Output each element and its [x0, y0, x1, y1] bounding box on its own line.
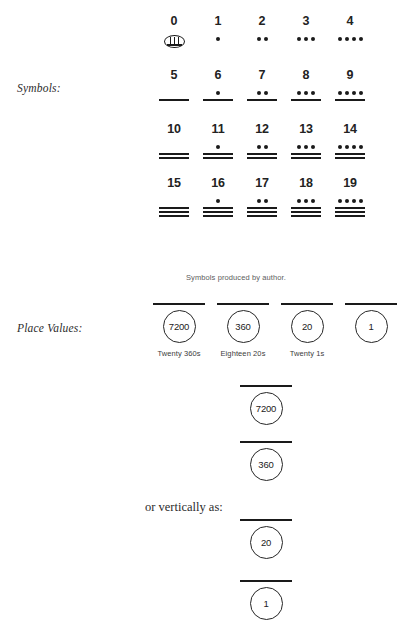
vertical-place-value-circle: 7200: [250, 392, 283, 425]
mayan-numeral-glyph: [291, 142, 321, 168]
bar-group: [203, 207, 233, 217]
mayan-numeral-glyph: [203, 196, 233, 222]
dot-group: [216, 88, 220, 97]
unit-dot-icon: [352, 91, 356, 95]
dot-group: [257, 88, 268, 97]
symbol-number-label: 2: [259, 14, 266, 30]
dot-group: [257, 196, 268, 205]
unit-dot-icon: [216, 145, 220, 149]
bar-group: [159, 99, 189, 101]
symbol-number-label: 1: [215, 14, 222, 30]
symbol-number-label: 10: [167, 122, 181, 138]
place-value-sublabel: Eighteen 20s: [221, 349, 266, 358]
unit-dot-icon: [338, 91, 342, 95]
unit-dot-icon: [352, 37, 356, 41]
mayan-numeral-glyph: [247, 196, 277, 222]
dot-group: [216, 34, 220, 43]
unit-dot-icon: [304, 37, 308, 41]
symbol-number-label: 19: [343, 176, 357, 192]
symbol-cell-11: 11: [196, 122, 240, 168]
unit-dot-icon: [338, 199, 342, 203]
five-bar-icon: [335, 215, 365, 217]
mayan-numeral-glyph: [335, 142, 365, 168]
symbol-number-label: 4: [347, 14, 354, 30]
mayan-numeral-glyph: [335, 88, 365, 114]
symbol-number-label: 7: [259, 68, 266, 84]
unit-dot-icon: [216, 91, 220, 95]
unit-dot-icon: [311, 145, 315, 149]
five-bar-icon: [203, 215, 233, 217]
bar-group: [335, 153, 365, 159]
bar-group: [203, 153, 233, 159]
vertical-place-value-1: 1: [238, 580, 294, 620]
unit-dot-icon: [264, 91, 268, 95]
five-bar-icon: [159, 215, 189, 217]
unit-dot-icon: [359, 199, 363, 203]
symbol-cell-0: 0: [152, 14, 196, 60]
symbol-cell-5: 5: [152, 68, 196, 114]
five-bar-icon: [291, 157, 321, 159]
mayan-numeral-glyph: [159, 142, 189, 168]
symbol-cell-19: 19: [328, 176, 372, 222]
bar-group: [247, 207, 277, 217]
bar-group: [159, 153, 189, 159]
five-bar-icon: [247, 215, 277, 217]
unit-dot-icon: [264, 199, 268, 203]
mayan-numeral-glyph: [203, 88, 233, 114]
bar-group: [291, 207, 321, 217]
unit-dot-icon: [257, 37, 261, 41]
place-value-circle: 20: [291, 310, 324, 343]
place-value-circle: 1: [355, 310, 388, 343]
symbol-cell-14: 14: [328, 122, 372, 168]
symbol-row: 56789: [152, 68, 372, 114]
mayan-numeral-glyph: [159, 88, 189, 114]
five-bar-icon: [247, 157, 277, 159]
symbols-caption: Symbols produced by author.: [186, 273, 286, 282]
five-bar-icon: [335, 207, 365, 209]
bar-group: [291, 99, 321, 101]
mayan-numeral-glyph: [247, 88, 277, 114]
unit-dot-icon: [257, 91, 261, 95]
five-bar-icon: [159, 207, 189, 209]
symbol-number-label: 8: [303, 68, 310, 84]
dot-group: [216, 196, 220, 205]
bar-group: [291, 153, 321, 159]
five-bar-icon: [291, 211, 321, 213]
five-bar-icon: [203, 153, 233, 155]
mayan-zero-shell-icon: [164, 34, 185, 60]
dot-group: [338, 196, 363, 205]
vertical-place-value-rule: [240, 519, 292, 521]
five-bar-icon: [291, 99, 321, 101]
symbol-number-label: 15: [167, 176, 181, 192]
mayan-numeral-glyph: [291, 196, 321, 222]
five-bar-icon: [247, 153, 277, 155]
symbol-row: 01234: [152, 14, 372, 60]
dot-group: [338, 142, 363, 151]
vertical-place-value-rule: [240, 441, 292, 443]
five-bar-icon: [335, 153, 365, 155]
five-bar-icon: [159, 99, 189, 101]
five-bar-icon: [203, 99, 233, 101]
symbol-number-label: 3: [303, 14, 310, 30]
five-bar-icon: [335, 211, 365, 213]
symbol-cell-6: 6: [196, 68, 240, 114]
five-bar-icon: [203, 207, 233, 209]
symbol-number-label: 16: [211, 176, 225, 192]
vertical-place-value-20: 20: [238, 519, 294, 559]
mayan-numeral-glyph: [247, 142, 277, 168]
mayan-numeral-glyph: [338, 34, 363, 60]
vertical-place-value-circle: 360: [250, 448, 283, 481]
place-values-section-label: Place Values:: [17, 322, 83, 334]
symbol-number-label: 11: [212, 122, 225, 138]
vertical-place-value-circle: 20: [250, 526, 283, 559]
symbol-number-label: 6: [215, 68, 222, 84]
symbol-row: 1516171819: [152, 176, 372, 222]
place-value-circle: 360: [227, 310, 260, 343]
bar-group: [335, 99, 365, 101]
symbol-cell-10: 10: [152, 122, 196, 168]
place-value-rule: [345, 303, 397, 305]
symbol-row: 1011121314: [152, 122, 372, 168]
mayan-numeral-glyph: [216, 34, 220, 60]
place-value-circle: 7200: [163, 310, 196, 343]
five-bar-icon: [335, 157, 365, 159]
